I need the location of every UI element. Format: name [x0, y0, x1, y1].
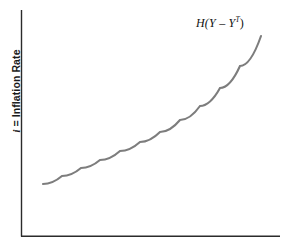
y-axis-label-variable: i: [11, 130, 22, 133]
chart-canvas: [0, 0, 287, 249]
figure-container: i = Inflation Rate H(Y – YT): [0, 0, 287, 249]
curve-label-prefix: H(: [196, 16, 209, 30]
curve-label: H(Y – YT): [196, 16, 244, 31]
y-axis-label: i = Inflation Rate: [9, 31, 23, 151]
inflation-response-curve: [43, 36, 261, 184]
curve-label-y1: Y: [209, 16, 216, 30]
y-axis-label-text: = Inflation Rate: [10, 49, 22, 129]
curve-label-suffix: ): [240, 16, 244, 30]
curve-label-minus: –: [216, 16, 229, 30]
